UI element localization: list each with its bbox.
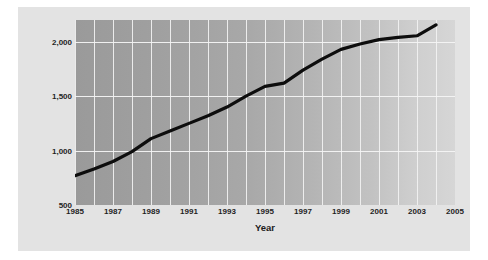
x-axis-tick-labels: 1985198719891991199319951997199920012003… [75, 206, 455, 222]
x-axis-tick-label: 1999 [321, 207, 361, 216]
inmates-line-series [75, 20, 455, 205]
x-axis-tick-label: 2005 [435, 207, 475, 216]
x-axis-tick-label: 1989 [131, 207, 171, 216]
x-axis-tick-label: 1995 [245, 207, 285, 216]
x-axis-title: Year [75, 222, 455, 233]
plot-area [75, 20, 455, 205]
chart-figure: Number of Inmates (in thousands) 5001,00… [0, 0, 488, 260]
x-axis-tick-label: 1997 [283, 207, 323, 216]
y-axis-tick-label: 2,000 [32, 37, 72, 46]
y-axis-tick-label: 1,500 [32, 92, 72, 101]
x-axis-tick-label: 1991 [169, 207, 209, 216]
y-axis-tick-labels: 5001,0001,5002,000 [26, 20, 72, 205]
x-axis-tick-label: 1987 [93, 207, 133, 216]
x-axis-tick-label: 1993 [207, 207, 247, 216]
x-axis-tick-label: 2001 [359, 207, 399, 216]
x-axis-tick-label: 1985 [55, 207, 95, 216]
x-axis-tick-label: 2003 [397, 207, 437, 216]
y-axis-tick-label: 1,000 [32, 146, 72, 155]
series-layer [75, 20, 455, 205]
